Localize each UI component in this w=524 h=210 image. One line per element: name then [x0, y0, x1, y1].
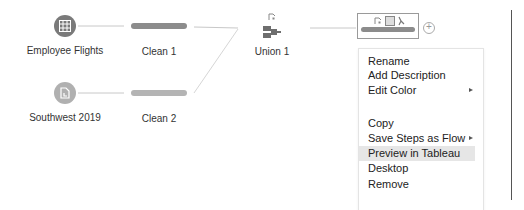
input-label-southwest-2019: Southwest 2019: [5, 112, 125, 123]
union-label: Union 1: [242, 46, 302, 57]
clean-step-2-bar[interactable]: [131, 90, 187, 96]
menu-item-label: Save Steps as Flow: [368, 132, 465, 144]
submenu-arrow-icon: [469, 136, 473, 140]
input-label-employee-flights: Employee Flights: [5, 45, 125, 56]
context-menu: Rename Add Description Edit Color Copy S…: [358, 48, 484, 210]
menu-item-add-description[interactable]: Add Description: [359, 68, 475, 83]
menu-item-rename[interactable]: Rename: [359, 54, 475, 69]
menu-item-preview-in-tableau-desktop[interactable]: Preview in Tableau Desktop: [359, 146, 475, 161]
submenu-arrow-icon: [469, 88, 473, 92]
plus-icon: +: [424, 21, 434, 33]
menu-item-label: Remove: [368, 178, 409, 190]
menu-item-label: Add Description: [368, 69, 446, 81]
menu-item-copy[interactable]: Copy: [359, 116, 475, 131]
menu-item-remove[interactable]: Remove: [359, 177, 475, 192]
annotation-icon: [374, 17, 382, 25]
menu-item-label: Preview in Tableau Desktop: [368, 147, 460, 174]
menu-item-label: Edit Color: [368, 84, 416, 96]
filter-icon: [385, 16, 395, 26]
menu-item-edit-color[interactable]: Edit Color: [359, 83, 475, 98]
clean-step-2-label: Clean 2: [129, 113, 189, 124]
panel-divider[interactable]: [511, 10, 512, 200]
file-icon: [59, 87, 71, 99]
union-node[interactable]: [263, 26, 281, 40]
add-step-button[interactable]: +: [423, 22, 435, 34]
clean-step-1-bar[interactable]: [131, 23, 187, 29]
clean-step-1-label: Clean 1: [129, 46, 189, 57]
selected-step[interactable]: [357, 13, 419, 39]
selected-step-bar: [361, 27, 415, 32]
calculation-icon: [397, 16, 405, 26]
menu-item-label: Copy: [368, 117, 394, 129]
menu-item-label: Rename: [368, 55, 410, 67]
menu-item-save-steps-as-flow[interactable]: Save Steps as Flow: [359, 131, 475, 146]
input-node-southwest-2019[interactable]: [54, 82, 76, 104]
union-annotation-icon: [268, 13, 276, 21]
union-icon: [263, 26, 281, 40]
table-grid-icon: [59, 20, 71, 32]
input-node-employee-flights[interactable]: [54, 15, 76, 37]
